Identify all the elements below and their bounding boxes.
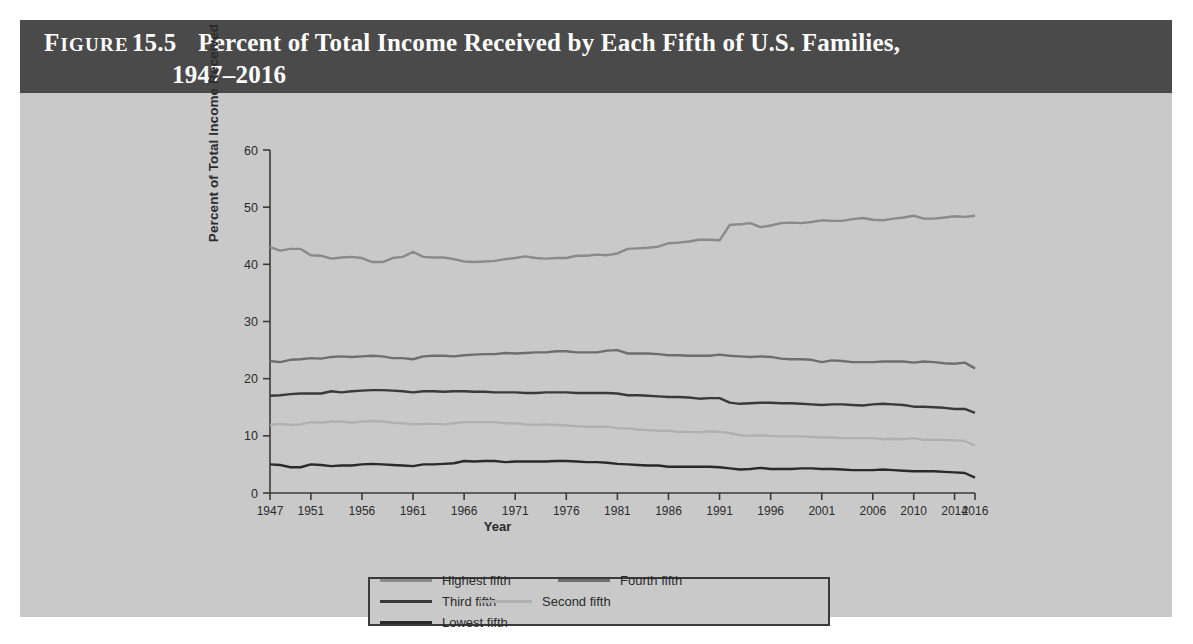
legend-swatch-icon — [380, 600, 432, 603]
legend-swatch-icon — [380, 579, 432, 582]
legend-item: Fourth fifth — [558, 570, 728, 591]
x-tick-label: 1986 — [655, 504, 682, 518]
series-line-highest-fifth — [270, 216, 975, 262]
x-tick-label: 2006 — [859, 504, 886, 518]
line-chart: 0102030405060 19471951195619611966197119… — [20, 93, 1172, 533]
legend-label: Lowest fifth — [442, 615, 508, 630]
legend-label: Second fifth — [542, 594, 611, 609]
figure-label-rest: IGURE — [60, 34, 128, 55]
series-line-lowest-fifth — [270, 461, 975, 478]
y-tick-label: 60 — [244, 144, 258, 158]
figure-label: FIGURE — [44, 34, 129, 55]
x-axis-ticks: 1947195119561961196619711976198119861991… — [257, 493, 989, 518]
y-tick-label: 0 — [251, 487, 258, 501]
legend-swatch-icon — [480, 600, 532, 603]
legend-swatch-icon — [380, 621, 432, 624]
legend-item: Second fifth — [480, 591, 658, 612]
figure-header-bar: FIGURE15.5Percent of Total Income Receiv… — [20, 20, 1172, 93]
legend-label: Highest fifth — [442, 573, 511, 588]
x-axis-label: Year — [20, 519, 975, 534]
x-tick-label: 1996 — [757, 504, 784, 518]
x-tick-label: 1951 — [298, 504, 325, 518]
chart-legend: Highest fifthFourth fifthThird fifthSeco… — [368, 577, 830, 626]
y-tick-label: 50 — [244, 201, 258, 215]
figure-title-line2: 1947–2016 — [172, 60, 1154, 90]
x-tick-label: 1956 — [349, 504, 376, 518]
figure-number: 15.5 — [132, 29, 177, 56]
x-tick-label: 2016 — [962, 504, 989, 518]
legend-swatch-icon — [558, 579, 610, 582]
figure-container: FIGURE15.5Percent of Total Income Receiv… — [20, 20, 1172, 617]
y-tick-label: 30 — [244, 315, 258, 329]
series-line-fourth-fifth — [270, 350, 975, 368]
x-tick-label: 1971 — [502, 504, 529, 518]
y-tick-label: 10 — [244, 429, 258, 443]
series-line-second-fifth — [270, 421, 975, 446]
figure-title-line1: Percent of Total Income Received by Each… — [198, 29, 900, 56]
plot-area: Percent of Total Income Received 0102030… — [20, 93, 1172, 617]
legend-label: Fourth fifth — [620, 573, 682, 588]
y-axis-ticks: 0102030405060 — [244, 144, 270, 501]
x-tick-label: 1947 — [257, 504, 284, 518]
x-tick-label: 2010 — [900, 504, 927, 518]
x-tick-label: 1976 — [553, 504, 580, 518]
y-tick-label: 20 — [244, 372, 258, 386]
x-tick-label: 1981 — [604, 504, 631, 518]
legend-item: Highest fifth — [380, 570, 558, 591]
legend-item: Third fifth — [380, 591, 480, 612]
legend-item: Lowest fifth — [380, 612, 550, 633]
series-line-third-fifth — [270, 390, 975, 413]
x-tick-label: 1961 — [400, 504, 427, 518]
x-tick-label: 1966 — [451, 504, 478, 518]
data-series — [270, 216, 975, 478]
y-tick-label: 40 — [244, 258, 258, 272]
x-tick-label: 1991 — [706, 504, 733, 518]
x-tick-label: 2001 — [808, 504, 835, 518]
